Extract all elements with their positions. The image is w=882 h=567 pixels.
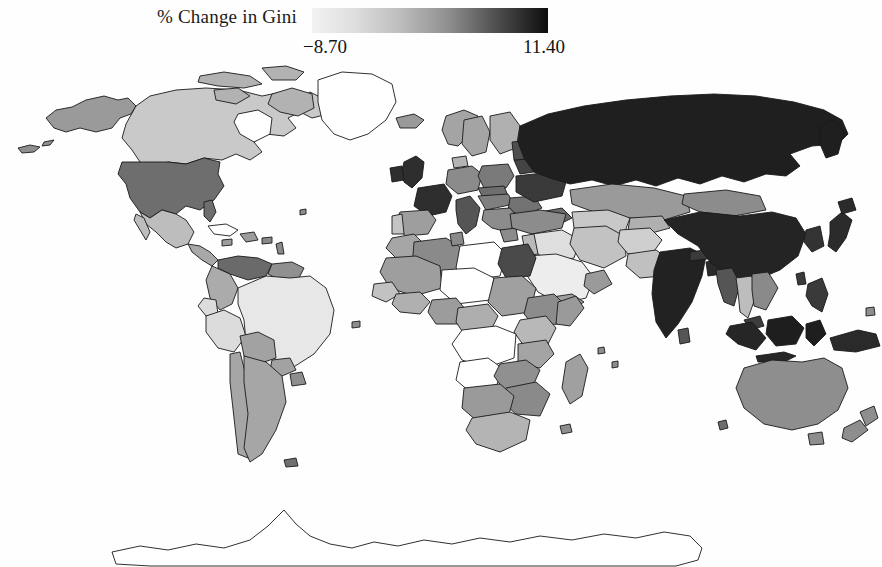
island-marker bbox=[598, 347, 605, 354]
japan-hokkaido bbox=[838, 198, 856, 214]
island-marker bbox=[612, 361, 618, 368]
ellesmere-island bbox=[262, 66, 304, 80]
figure-root: % Change in Gini −8.70 11.40 bbox=[0, 0, 882, 567]
country-uruguay bbox=[290, 372, 306, 386]
country-vietnam-laos-cambodia bbox=[752, 272, 778, 310]
tasmania bbox=[808, 432, 824, 445]
island-marker bbox=[866, 307, 875, 316]
country-india bbox=[652, 248, 706, 338]
island-marker bbox=[300, 209, 306, 215]
country-philippines bbox=[806, 278, 828, 312]
country-egypt bbox=[498, 244, 536, 278]
country-poland bbox=[478, 164, 514, 188]
choropleth-world-map bbox=[0, 62, 882, 567]
country-papua-new-guinea bbox=[830, 330, 880, 352]
country-greece bbox=[500, 228, 518, 242]
country-portugal bbox=[392, 214, 404, 234]
legend-min-tick: −8.70 bbox=[303, 36, 347, 58]
country-tunisia bbox=[450, 232, 464, 246]
country-australia bbox=[736, 358, 848, 430]
country-sweden bbox=[462, 116, 490, 156]
jamaica bbox=[222, 239, 232, 246]
aleutian-islands bbox=[18, 145, 40, 153]
country-ivory-ghana bbox=[392, 292, 430, 314]
country-madagascar bbox=[562, 354, 588, 404]
country-italy bbox=[456, 196, 480, 234]
country-germany bbox=[446, 166, 482, 194]
country-greenland bbox=[318, 72, 396, 140]
country-denmark bbox=[452, 156, 468, 168]
central-america bbox=[188, 244, 218, 266]
new-zealand-south-island bbox=[842, 420, 868, 442]
aleutian-islands-2 bbox=[42, 140, 54, 146]
taiwan bbox=[796, 272, 806, 285]
country-japan bbox=[828, 212, 852, 252]
indonesia-borneo bbox=[766, 316, 804, 346]
continent-antarctica bbox=[112, 510, 702, 566]
colorbar-gradient bbox=[312, 8, 548, 33]
florida-peninsula bbox=[204, 200, 216, 222]
country-north-south-korea bbox=[804, 226, 824, 252]
indonesia-sulawesi bbox=[806, 320, 826, 346]
lesser-antilles bbox=[276, 242, 284, 254]
legend: % Change in Gini −8.70 11.40 bbox=[0, 0, 620, 64]
country-mongolia bbox=[682, 190, 766, 216]
country-russia bbox=[518, 94, 848, 186]
colorbar bbox=[312, 8, 548, 33]
country-cuba bbox=[208, 224, 238, 236]
legend-title: % Change in Gini bbox=[157, 6, 297, 28]
country-ireland bbox=[390, 166, 404, 182]
country-iceland bbox=[396, 114, 424, 128]
country-united-kingdom bbox=[402, 156, 424, 188]
world-map-svg bbox=[0, 62, 882, 567]
island-marker bbox=[352, 321, 360, 328]
canadian-arctic-islands bbox=[198, 72, 262, 88]
legend-max-tick: 11.40 bbox=[523, 36, 565, 58]
island-marker bbox=[718, 420, 728, 430]
falkland-islands bbox=[284, 458, 298, 467]
puerto-rico bbox=[262, 237, 272, 244]
island-marker bbox=[560, 424, 572, 434]
country-south-africa bbox=[466, 412, 530, 452]
country-sri-lanka bbox=[678, 328, 690, 344]
country-alaska bbox=[46, 96, 136, 132]
hispaniola bbox=[240, 232, 258, 242]
country-peru bbox=[206, 310, 246, 352]
